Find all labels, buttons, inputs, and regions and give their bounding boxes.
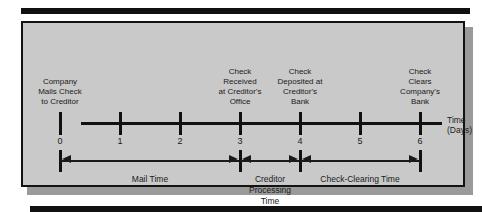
event-label-day-6: CheckClearsCompany'sBank [374, 67, 466, 107]
event-label-line: Company [14, 77, 106, 87]
tick-label-4: 4 [290, 136, 310, 147]
event-label-line: Creditor's [254, 87, 346, 97]
axis-tick-2 [179, 112, 182, 135]
axis-tick-0 [59, 112, 62, 135]
span-label-2: Check-Clearing Time [300, 174, 420, 185]
event-label-line: Bank [254, 97, 346, 107]
axis-tick-3 [239, 112, 242, 135]
tick-label-5: 5 [350, 136, 370, 147]
event-label-line: Clears [374, 77, 466, 87]
axis-tick-4 [299, 112, 302, 135]
arrow-head-left [62, 155, 71, 163]
span-label-0: Mail Time [90, 174, 210, 185]
event-label-line: Deposited at [254, 77, 346, 87]
event-label-line: Check [374, 67, 466, 77]
axis-title: Time (Days) [447, 115, 472, 135]
arrow-head-right [409, 155, 418, 163]
tick-label-2: 2 [170, 136, 190, 147]
event-label-day-4: CheckDeposited atCreditor'sBank [254, 67, 346, 107]
top-rule [21, 8, 470, 14]
bottom-rule [30, 206, 482, 212]
time-axis-line [81, 122, 442, 125]
tick-label-1: 1 [110, 136, 130, 147]
event-label-line: Bank [374, 97, 466, 107]
figure-root: Time (Days) 0123456 CompanyMails Checkto… [0, 0, 482, 212]
arrow-head-left [242, 155, 251, 163]
tick-label-6: 6 [410, 136, 430, 147]
axis-tick-1 [119, 112, 122, 135]
event-label-line: Mails Check [14, 87, 106, 97]
event-label-line: to Creditor [14, 97, 106, 107]
span-label-line: Processing [210, 185, 330, 196]
tick-label-3: 3 [230, 136, 250, 147]
span-line [60, 160, 240, 162]
span-label-line: Mail Time [90, 174, 210, 185]
axis-tick-6 [419, 112, 422, 135]
arrow-head-left [302, 155, 311, 163]
timeline-panel: Time (Days) 0123456 CompanyMails Checkto… [21, 21, 465, 187]
axis-title-line2: (Days) [447, 125, 472, 135]
event-label-day-0: CompanyMails Checkto Creditor [14, 77, 106, 107]
span-line [300, 160, 420, 162]
event-label-line: Check [254, 67, 346, 77]
span-label-line: Check-Clearing Time [300, 174, 420, 185]
axis-tick-5 [359, 112, 362, 135]
axis-title-line1: Time [447, 115, 472, 125]
arrow-head-right [229, 155, 238, 163]
tick-label-0: 0 [50, 136, 70, 147]
event-label-line: Company's [374, 87, 466, 97]
arrow-head-right [289, 155, 298, 163]
